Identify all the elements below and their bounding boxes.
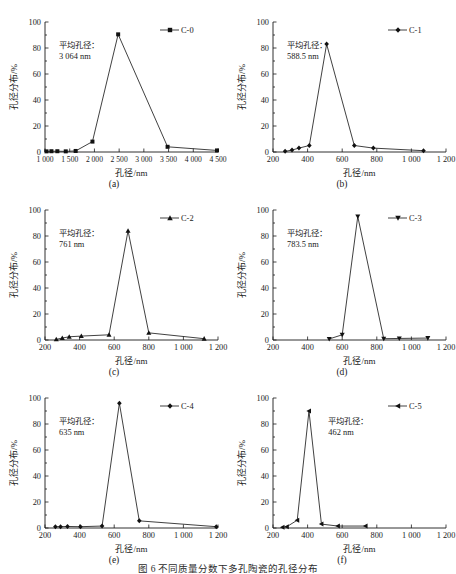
legend-label: C-4	[181, 402, 194, 411]
data-point	[146, 330, 151, 335]
svg-text:600: 600	[336, 343, 348, 352]
svg-text:20: 20	[261, 310, 269, 319]
data-point	[355, 215, 360, 220]
svg-text:1 500: 1 500	[61, 155, 78, 164]
svg-text:1 200: 1 200	[437, 531, 456, 540]
svg-text:100: 100	[257, 18, 269, 27]
mean-pore-annotation: 平均孔径：761 nm	[59, 228, 99, 249]
svg-text:80: 80	[33, 420, 41, 429]
chart-d: 0204060801002004006008001 0001 200孔径/nm孔…	[228, 188, 456, 378]
data-point	[116, 32, 120, 36]
svg-text:80: 80	[261, 44, 269, 53]
svg-text:60: 60	[33, 70, 41, 79]
data-point	[90, 140, 94, 144]
mean-pore-annotation: 平均孔径：635 nm	[59, 416, 99, 437]
svg-text:4 000: 4 000	[185, 155, 202, 164]
legend: C-2	[160, 214, 194, 223]
svg-text:40: 40	[261, 96, 269, 105]
legend-label: C-2	[181, 214, 194, 223]
svg-text:100: 100	[29, 206, 41, 215]
svg-text:40: 40	[33, 284, 41, 293]
svg-text:1 000: 1 000	[402, 531, 421, 540]
data-point	[78, 524, 83, 529]
x-axis-ticks: 2004006008001 0001 200	[267, 525, 456, 541]
y-axis-ticks: 020406080100	[257, 394, 277, 533]
svg-text:1 000: 1 000	[174, 531, 193, 540]
svg-text:平均孔径：: 平均孔径：	[59, 228, 99, 238]
chart-a: 0204060801001 0001 5002 0002 5003 0003 5…	[0, 0, 228, 190]
y-axis-title: 孔径分布/%	[8, 439, 19, 486]
data-point	[53, 524, 58, 529]
svg-text:400: 400	[301, 155, 313, 164]
y-axis-ticks: 020406080100	[29, 394, 49, 533]
svg-text:1 200: 1 200	[437, 343, 456, 352]
x-axis-title: 孔径/nm	[115, 543, 147, 554]
svg-text:200: 200	[267, 343, 279, 352]
svg-text:200: 200	[267, 155, 279, 164]
svg-text:200: 200	[267, 531, 279, 540]
svg-text:60: 60	[261, 70, 269, 79]
data-point	[64, 149, 68, 153]
svg-text:600: 600	[108, 343, 120, 352]
svg-text:3 064 nm: 3 064 nm	[59, 52, 91, 61]
svg-text:60: 60	[33, 446, 41, 455]
svg-text:100: 100	[257, 206, 269, 215]
chart-f: 0204060801002004006008001 0001 200孔径/nm孔…	[228, 376, 456, 566]
y-axis-title: 孔径分布/%	[236, 439, 247, 486]
data-point	[297, 146, 302, 151]
svg-text:3 000: 3 000	[135, 155, 152, 164]
y-axis-title: 孔径分布/%	[8, 251, 19, 298]
mean-pore-annotation: 平均孔径：3 064 nm	[59, 40, 99, 61]
y-axis-ticks: 020406080100	[257, 206, 277, 345]
legend: C-1	[388, 26, 422, 35]
data-series-C-0	[44, 32, 219, 153]
svg-text:200: 200	[39, 531, 51, 540]
data-series-C-5	[280, 409, 368, 530]
data-point	[352, 143, 357, 148]
chart-e: 0204060801002004006008001 0001 200孔径/nm孔…	[0, 376, 228, 566]
chart-panel-a: 0204060801001 0001 5002 0002 5003 0003 5…	[0, 0, 228, 190]
data-point	[371, 146, 376, 151]
data-point	[137, 518, 142, 523]
svg-text:3 500: 3 500	[160, 155, 177, 164]
y-axis-ticks: 020406080100	[29, 18, 49, 157]
chart-panel-b: 0204060801002004006008001 0001 200孔径/nm孔…	[228, 0, 456, 190]
legend-marker	[167, 403, 172, 409]
svg-text:80: 80	[261, 420, 269, 429]
chart-panel-d: 0204060801002004006008001 0001 200孔径/nm孔…	[228, 188, 456, 378]
svg-text:平均孔径：: 平均孔径：	[287, 40, 327, 50]
mean-pore-annotation: 平均孔径：462 nm	[328, 416, 368, 437]
svg-text:40: 40	[261, 284, 269, 293]
legend: C-5	[388, 402, 422, 411]
legend-label: C-5	[409, 402, 422, 411]
legend: C-3	[388, 214, 422, 223]
svg-text:20: 20	[33, 310, 41, 319]
svg-text:800: 800	[371, 343, 383, 352]
x-axis-title: 孔径/nm	[343, 355, 375, 366]
data-point	[55, 149, 59, 153]
svg-text:平均孔径：: 平均孔径：	[287, 228, 327, 238]
data-point	[58, 524, 63, 529]
data-point	[117, 401, 122, 406]
svg-text:20: 20	[33, 122, 41, 131]
x-axis-title: 孔径/nm	[343, 167, 375, 178]
figure-caption: 图 6 不同质量分数下多孔陶瓷的孔径分布	[0, 563, 456, 574]
legend-marker	[395, 27, 400, 33]
data-point	[74, 149, 78, 153]
svg-text:60: 60	[261, 446, 269, 455]
legend-marker	[395, 403, 400, 409]
svg-text:400: 400	[301, 343, 313, 352]
x-axis-title: 孔径/nm	[115, 355, 147, 366]
svg-text:80: 80	[33, 232, 41, 241]
legend-label: C-3	[409, 214, 422, 223]
legend-label: C-0	[181, 26, 194, 35]
legend: C-4	[160, 402, 194, 411]
svg-text:600: 600	[108, 531, 120, 540]
x-axis-title: 孔径/nm	[115, 167, 147, 178]
svg-text:20: 20	[261, 122, 269, 131]
svg-text:761 nm: 761 nm	[59, 240, 85, 249]
data-point	[307, 143, 312, 148]
mean-pore-annotation: 平均孔径：588.5 nm	[287, 40, 327, 61]
data-point	[44, 149, 48, 153]
mean-pore-annotation: 平均孔径：783.5 nm	[287, 228, 327, 249]
